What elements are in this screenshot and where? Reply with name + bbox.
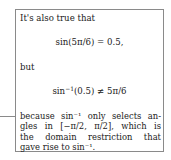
margin-note-connector	[0, 116, 15, 117]
equation-arcsin-inequality: sin−1(0.5) ≠ 5π/6	[16, 86, 163, 96]
equation-superscript: −1	[65, 85, 74, 92]
equation-rest: (0.5) ≠ 5π/6	[74, 86, 127, 96]
note-explanation: because sin⁻¹ only selects an- gles in […	[20, 111, 161, 153]
note-intro: It's also true that	[20, 13, 95, 23]
explanation-line: the domain restriction that	[20, 132, 161, 142]
explanation-line: because sin⁻¹ only selects an-	[20, 111, 161, 121]
explanation-line: gles in [−π/2, π/2], which is	[20, 121, 161, 131]
note-conjunction: but	[20, 62, 35, 72]
explanation-line: gave rise to sin⁻¹.	[20, 142, 161, 152]
equation-sin-5pi-6: sin(5π/6) = 0.5,	[16, 37, 163, 47]
equation-fn: sin	[52, 86, 65, 96]
margin-note-box: It's also true that sin(5π/6) = 0.5, but…	[15, 9, 164, 152]
